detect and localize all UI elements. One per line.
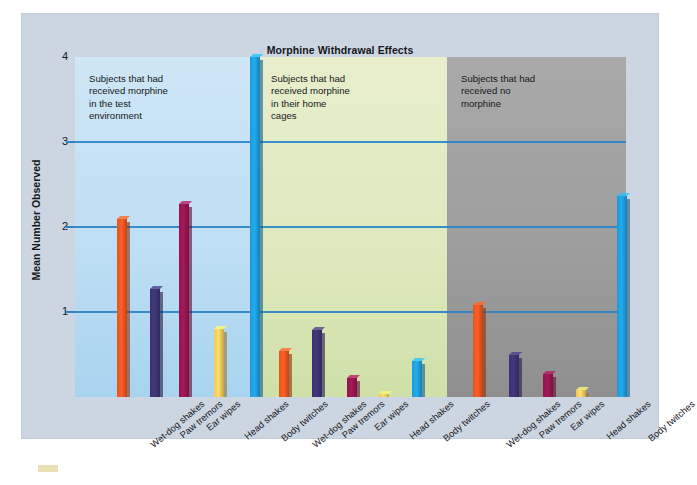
bar-g2-paw-tremors: [312, 330, 322, 397]
y-tick-label-4: 4: [48, 50, 68, 62]
bar-g3-body-twitches: [617, 196, 627, 397]
y-axis-label: Mean Number Observed: [30, 120, 42, 320]
panel-note-test-environment: Subjects that had received morphine in t…: [89, 73, 168, 123]
bar-g3-paw-tremors: [509, 355, 519, 398]
bar-top: [617, 193, 630, 196]
bar-side: [627, 199, 630, 397]
x-axis-labels: Wet-dog shakesPaw tremorsEar wipesHead s…: [75, 399, 675, 485]
bar-face: [473, 305, 483, 397]
x-label-g3-4: Body twitches: [646, 399, 696, 444]
bar-face: [250, 57, 260, 397]
y-tick-mark-3: [66, 141, 75, 143]
bar-face: [279, 351, 289, 397]
figure-frame: Morphine Withdrawal Effects Mean Number …: [22, 14, 658, 438]
bar-face: [543, 374, 553, 397]
bar-side: [160, 292, 163, 397]
bar-side: [189, 207, 192, 397]
bar-g3-ear-wipes: [543, 374, 553, 397]
bar-face: [117, 219, 127, 398]
bar-face: [347, 378, 357, 397]
plot-area: Subjects that had received morphine in t…: [75, 57, 626, 397]
bar-g2-wet-dog-shakes: [279, 351, 289, 397]
y-tick-label-2: 2: [48, 220, 68, 232]
bar-g3-wet-dog-shakes: [473, 305, 483, 397]
bar-side: [553, 377, 556, 397]
bar-side: [127, 222, 130, 398]
bar-g1-wet-dog-shakes: [117, 219, 127, 398]
bar-side: [422, 364, 425, 397]
bar-face: [617, 196, 627, 397]
bar-side: [357, 381, 360, 397]
bar-face: [214, 329, 224, 397]
bar-side: [483, 308, 486, 397]
bar-face: [150, 289, 160, 397]
bar-side: [519, 358, 522, 398]
bar-g3-head-shakes: [576, 390, 586, 397]
bar-face: [412, 361, 422, 397]
scan-artifact: [38, 465, 58, 472]
bar-g2-body-twitches: [412, 361, 422, 397]
bar-face: [576, 390, 586, 397]
gridline-2: [75, 226, 626, 228]
bar-g1-paw-tremors: [150, 289, 160, 397]
bar-face: [509, 355, 519, 398]
bar-side: [224, 332, 227, 397]
bar-g1-ear-wipes: [179, 204, 189, 397]
chart-title: Morphine Withdrawal Effects: [22, 44, 658, 56]
bar-g1-head-shakes: [214, 329, 224, 397]
bar-side: [586, 393, 589, 397]
bar-side: [289, 354, 292, 397]
bar-g2-head-shakes: [379, 394, 389, 397]
gridline-3: [75, 141, 626, 143]
bar-g1-body-twitches: [250, 57, 260, 397]
y-tick-label-3: 3: [48, 135, 68, 147]
bar-face: [312, 330, 322, 397]
bar-side: [260, 60, 263, 397]
y-tick-label-1: 1: [48, 305, 68, 317]
y-tick-mark-2: [66, 226, 75, 228]
bar-g2-ear-wipes: [347, 378, 357, 397]
bar-face: [179, 204, 189, 397]
bar-face: [379, 394, 389, 397]
panel-note-home-cages: Subjects that had received morphine in t…: [271, 73, 350, 123]
y-tick-mark-1: [66, 311, 75, 313]
panel-note-no-morphine: Subjects that had received no morphine: [461, 73, 535, 110]
bar-side: [322, 333, 325, 397]
